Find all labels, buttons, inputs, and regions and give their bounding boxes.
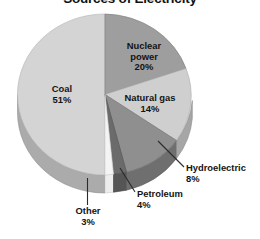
slice-label-hydroelectric-name: Hydroelectric xyxy=(186,162,246,173)
slice-label-coal: Coal 51% xyxy=(32,84,92,105)
slice-label-nuclear-value: 20% xyxy=(106,62,182,73)
slice-label-petroleum-value: 4% xyxy=(137,200,183,211)
slice-label-other: Other 3% xyxy=(58,206,118,227)
slice-label-other-value: 3% xyxy=(58,217,118,228)
slice-label-hydroelectric-value: 8% xyxy=(186,174,246,185)
slice-label-coal-value: 51% xyxy=(32,95,92,106)
pie-chart-figure: Sources of Electricity xyxy=(0,0,260,239)
slice-label-petroleum: Petroleum 4% xyxy=(137,189,183,210)
pie-chart-graphic xyxy=(0,0,260,239)
slice-label-nuclear-line1: Nuclear xyxy=(127,40,161,51)
slice-label-natural-gas-name: Natural gas xyxy=(124,92,175,103)
slice-label-other-name: Other xyxy=(75,205,100,216)
slice-label-natural-gas: Natural gas 14% xyxy=(108,93,192,114)
slice-label-hydroelectric: Hydroelectric 8% xyxy=(186,163,246,184)
pie-side-other xyxy=(105,174,114,193)
slice-label-coal-name: Coal xyxy=(52,83,72,94)
slice-label-natural-gas-value: 14% xyxy=(108,104,192,115)
slice-label-petroleum-name: Petroleum xyxy=(137,188,183,199)
slice-label-nuclear-power: Nuclear power 20% xyxy=(106,41,182,73)
